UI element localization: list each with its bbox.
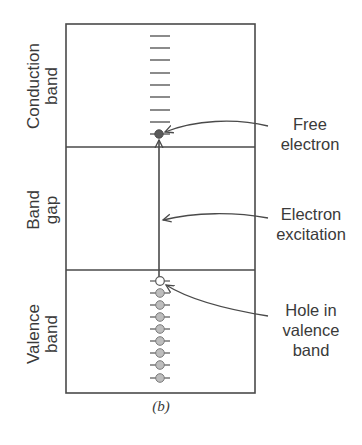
valence-band-label: Valence band: [25, 295, 65, 373]
excitation-line1: Electron: [271, 204, 351, 224]
hole: [156, 277, 165, 286]
band-diagram: Conduction band Band gap Valence band Fr…: [0, 0, 362, 445]
hole-line2: valence: [271, 320, 351, 340]
band-gap-label: Band gap: [25, 178, 65, 242]
conduction-levels: [150, 36, 170, 134]
free-electron-pointer: [165, 121, 268, 132]
free-electron-line2: electron: [270, 134, 350, 154]
gap-label-line1: Band: [25, 178, 43, 242]
conduction-label-line2: band: [43, 33, 61, 139]
free-electron-line1: Free: [270, 114, 350, 134]
conduction-label-line1: Conduction: [25, 33, 43, 139]
conduction-band-label: Conduction band: [25, 33, 65, 139]
hole-pointer: [166, 285, 268, 316]
valence-label-line2: band: [43, 295, 61, 373]
free-electron-annotation: Free electron: [270, 114, 350, 154]
free-electron: [155, 130, 163, 138]
valence-electrons: [156, 289, 165, 383]
valence-label-line1: Valence: [25, 295, 43, 373]
hole-line3: band: [271, 340, 351, 360]
gap-label-line2: gap: [43, 178, 61, 242]
electron-excitation-annotation: Electron excitation: [271, 204, 351, 244]
hole-line1: Hole in: [271, 300, 351, 320]
hole-annotation: Hole in valence band: [271, 300, 351, 360]
excitation-pointer: [163, 214, 268, 220]
excitation-line2: excitation: [271, 224, 351, 244]
figure-caption: (b): [0, 398, 322, 415]
